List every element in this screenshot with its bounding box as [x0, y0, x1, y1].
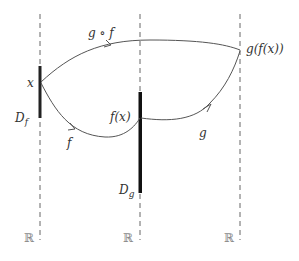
point-fx-label: f(x) — [110, 111, 131, 123]
domain-g-bar — [139, 92, 143, 193]
domain-g-sub: g — [129, 189, 135, 199]
point-x-label: x — [27, 77, 34, 89]
domain-g-base: D — [119, 183, 129, 197]
point-gfx-label: g(f(x)) — [246, 43, 284, 55]
domain-f-sub: f — [25, 117, 28, 127]
g-arrow-label: g — [199, 127, 207, 139]
f-arrow-label: f — [67, 137, 71, 149]
domain-f-bar — [39, 66, 42, 118]
g-arrow-curve — [141, 51, 240, 120]
composition-label: g ∘ f — [88, 27, 114, 39]
left-axis-label: ℝ — [24, 232, 34, 244]
diagram-canvas — [0, 0, 299, 261]
composition-arrowhead — [104, 40, 111, 47]
domain-f-label: Df — [15, 112, 28, 127]
g-arrowhead — [203, 104, 211, 112]
middle-axis-label: ℝ — [123, 232, 133, 244]
domain-f-base: D — [15, 111, 25, 125]
domain-g-label: Dg — [119, 184, 134, 199]
right-axis-label: ℝ — [224, 232, 234, 244]
